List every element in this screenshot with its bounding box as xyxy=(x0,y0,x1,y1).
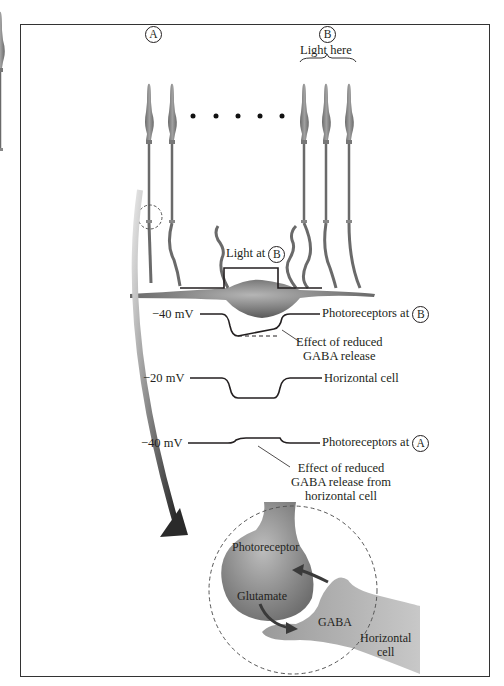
glutamate-label: Glutamate xyxy=(237,589,287,603)
light-at-label: Light at B xyxy=(226,246,285,263)
trace2-voltage: −20 mV xyxy=(143,371,184,385)
horizontal-cell-label: Horizontal cell xyxy=(360,631,411,659)
marker-b: B xyxy=(319,26,336,43)
trace1-voltage: −40 mV xyxy=(152,307,193,321)
diagram-canvas xyxy=(0,0,504,686)
horizontal-cell-trace xyxy=(190,378,322,398)
ellipsis-dots xyxy=(191,114,285,119)
marker-a: A xyxy=(145,26,162,43)
trace2-label: Horizontal cell xyxy=(324,371,399,385)
horizontal-cell xyxy=(130,226,375,318)
trace3-voltage: −40 mV xyxy=(141,436,182,450)
photoreceptor-cell xyxy=(0,12,5,151)
gaba-label: GABA xyxy=(318,615,352,629)
trace1-note: Effect of reduced GABA release xyxy=(296,335,383,363)
trace3-label: Photoreceptors at A xyxy=(322,435,429,452)
photoreceptor-a-trace xyxy=(188,438,320,443)
trace1-label: Photoreceptors at B xyxy=(322,306,429,323)
light-here-label: Light here xyxy=(300,43,352,57)
photoreceptor-terminal xyxy=(221,502,313,621)
trace3-note: Effect of reduced GABA release from hori… xyxy=(291,461,391,503)
photoreceptor-label: Photoreceptor xyxy=(232,540,299,554)
